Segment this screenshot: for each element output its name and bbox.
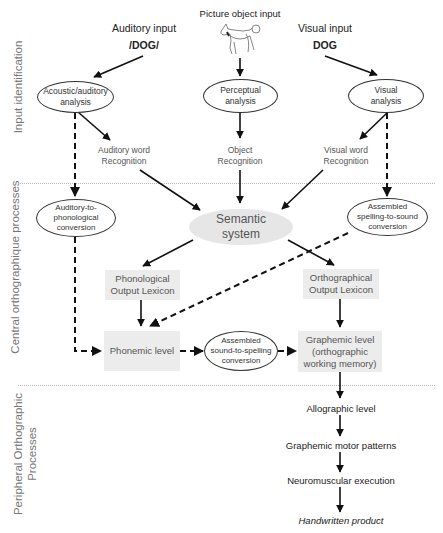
phonological-output-lexicon-box: Phonological Output Lexicon xyxy=(105,270,180,300)
handwritten-product-label: Handwritten product xyxy=(298,515,383,527)
graphemic-level-box: Graphemic level (orthographic working me… xyxy=(298,331,382,372)
visual-word-recognition-label: Visual word Recognition xyxy=(324,145,369,167)
visual-input-title: Visual input xyxy=(298,22,352,34)
orthographical-output-lexicon-box: Orthographical Output Lexicon xyxy=(303,269,379,299)
dog-drawing-icon xyxy=(216,20,266,56)
picture-input-title: Picture object input xyxy=(200,8,281,20)
semantic-system-node: Semantic system xyxy=(189,209,293,245)
graphemic-motor-patterns-label: Graphemic motor patterns xyxy=(286,440,396,452)
auditory-word-recognition-label: Auditory word Recognition xyxy=(98,145,150,167)
auditory-input-value: /DOG/ xyxy=(129,39,159,51)
assembled-spelling-to-sound-node: Assembled spelling-to-sound conversion xyxy=(347,198,428,236)
acoustic-analysis-node: Acoustic/auditory analysis xyxy=(37,81,114,113)
auditory-phonological-conversion-node: Auditory-to- phonological conversion xyxy=(36,199,116,237)
neuromuscular-execution-label: Neuromuscular execution xyxy=(287,475,395,487)
auditory-input-title: Auditory input xyxy=(112,22,176,34)
allographic-level-label: Allographic level xyxy=(306,403,375,415)
perceptual-analysis-node: Perceptual analysis xyxy=(203,79,278,113)
visual-analysis-node: Visual analysis xyxy=(348,79,424,113)
visual-input-value: DOG xyxy=(313,39,337,51)
assembled-sound-to-spelling-node: Assembled sound-to-spelling conversion xyxy=(204,331,278,371)
object-recognition-label: Object Recognition xyxy=(218,145,263,167)
phonemic-level-box: Phonemic level xyxy=(104,331,180,371)
